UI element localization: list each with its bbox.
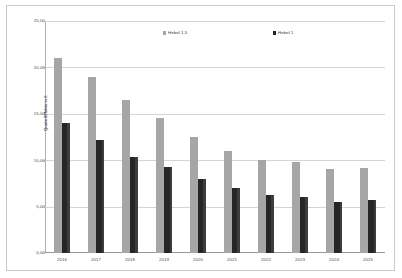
bar-Hebel1-2020 bbox=[198, 179, 206, 253]
bar-Hebel15-2023 bbox=[292, 162, 300, 253]
bar-Hebel1-2024 bbox=[334, 202, 342, 253]
bar-Hebel15-2022 bbox=[258, 160, 266, 253]
legend-swatch-icon bbox=[273, 31, 276, 34]
bar-Hebel1-2022 bbox=[266, 195, 274, 253]
legend-swatch-icon bbox=[163, 31, 166, 34]
bar-Hebel1-2025 bbox=[368, 200, 376, 253]
legend-entry-Hebel15: Hebel 1,5 bbox=[163, 30, 187, 36]
legend-entry-Hebel1: Hebel 1 bbox=[273, 30, 293, 36]
bar-Hebel1-2019 bbox=[164, 167, 172, 253]
bar-Hebel15-2016 bbox=[54, 58, 62, 253]
bar-Hebel1-2021 bbox=[232, 188, 240, 253]
value-axis-tick-label: 15,00 bbox=[17, 111, 45, 116]
bar-Hebel1-2017 bbox=[96, 140, 104, 253]
category-axis-tick-label: 2022 bbox=[249, 257, 283, 263]
bar-Hebel1-2023 bbox=[300, 197, 308, 253]
category-axis-tick-label: 2023 bbox=[283, 257, 317, 263]
category-axis-tick-label: 2025 bbox=[351, 257, 385, 263]
category-axis-tick-label: 2020 bbox=[181, 257, 215, 263]
chart-legend: Hebel 1,5Hebel 1 bbox=[45, 30, 385, 38]
bar-Hebel15-2021 bbox=[224, 151, 232, 253]
value-axis-tick-mark bbox=[42, 253, 45, 254]
legend-label: Hebel 1,5 bbox=[168, 30, 187, 36]
chart-frame: 0,005,0010,0015,0020,0025,00 Quote Effek… bbox=[6, 5, 395, 271]
value-axis-tick-label: 5,00 bbox=[17, 204, 45, 209]
bar-Hebel15-2024 bbox=[326, 169, 334, 253]
bar-Hebel15-2020 bbox=[190, 137, 198, 253]
value-axis-tick-label: 25,00 bbox=[17, 18, 45, 23]
category-axis-tick-label: 2021 bbox=[215, 257, 249, 263]
value-axis-tick-label: 10,00 bbox=[17, 158, 45, 163]
bar-Hebel15-2025 bbox=[360, 168, 368, 253]
bar-Hebel15-2018 bbox=[122, 100, 130, 253]
category-axis-tick-label: 2018 bbox=[113, 257, 147, 263]
category-axis-tick-label: 2019 bbox=[147, 257, 181, 263]
value-axis-tick-label: 0,00 bbox=[17, 250, 45, 255]
bars-layer bbox=[45, 21, 385, 253]
plot-area: 0,005,0010,0015,0020,0025,00 Quote Effek… bbox=[45, 21, 385, 253]
bar-Hebel15-2019 bbox=[156, 118, 164, 253]
bar-Hebel1-2016 bbox=[62, 123, 70, 253]
category-axis-tick-label: 2017 bbox=[79, 257, 113, 263]
category-axis-tick-labels: 2016201720182019202020212022202320242025 bbox=[45, 257, 385, 269]
value-axis-tick-labels: 0,005,0010,0015,0020,0025,00 bbox=[11, 21, 45, 253]
legend-label: Hebel 1 bbox=[278, 30, 293, 36]
bar-Hebel1-2018 bbox=[130, 157, 138, 253]
category-axis-tick-label: 2024 bbox=[317, 257, 351, 263]
bar-Hebel15-2017 bbox=[88, 77, 96, 253]
value-axis-tick-label: 20,00 bbox=[17, 65, 45, 70]
category-axis-tick-label: 2016 bbox=[45, 257, 79, 263]
